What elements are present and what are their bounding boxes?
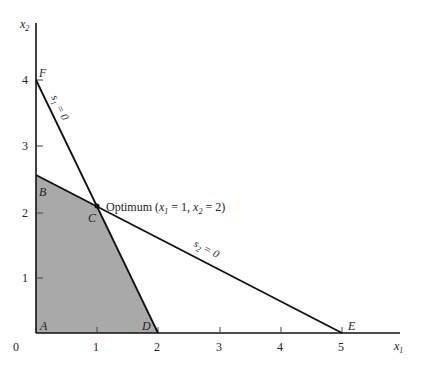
x-axis-title: x1	[393, 339, 403, 355]
point-label-d: D	[141, 319, 151, 333]
optimum-annotation: Optimum (x1 = 1, x2 = 2)	[106, 200, 225, 216]
x-tick-label: 2	[154, 340, 160, 354]
x-tick-label: 1	[93, 340, 99, 354]
x-tick-label: 0	[13, 340, 19, 354]
y-tick-label: 1	[22, 271, 28, 285]
point-label-c: C	[88, 211, 97, 225]
x-tick-label: 4	[277, 340, 283, 354]
point-label-f: F	[38, 66, 47, 80]
point-label-b: B	[39, 185, 47, 199]
x-tick-label: 5	[338, 340, 344, 354]
x-tick-label: 3	[216, 340, 222, 354]
optimum-point	[95, 204, 100, 209]
y-tick-label: 2	[22, 206, 28, 220]
lp-graph: 0 1 2 3 4 5 1 2 3 4 x1 x2 A B C D E F s1…	[0, 0, 421, 366]
y-tick-label: 3	[22, 139, 28, 153]
y-axis-title: x2	[19, 17, 29, 33]
y-tick-label: 4	[22, 73, 28, 87]
point-label-a: A	[39, 319, 48, 333]
constraint-label-s2: s2 = 0	[191, 237, 222, 263]
feasible-region	[36, 175, 158, 333]
point-label-e: E	[347, 319, 356, 333]
